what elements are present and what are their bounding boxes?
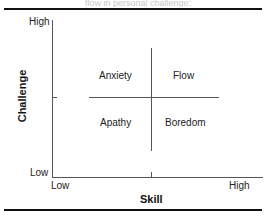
y-axis-mid-tick xyxy=(52,97,57,98)
x-axis xyxy=(52,177,263,178)
quadrant-divider-horizontal xyxy=(89,97,219,98)
y-axis-low-label: Low xyxy=(30,167,48,178)
quadrant-flow: Flow xyxy=(173,70,194,81)
x-axis-mid-tick xyxy=(151,172,152,177)
top-rule xyxy=(4,8,262,10)
quadrant-anxiety: Anxiety xyxy=(99,70,132,81)
x-axis-low-label: Low xyxy=(51,180,69,191)
x-axis-high-label: High xyxy=(229,180,250,191)
bottom-rule xyxy=(4,209,262,211)
quadrant-boredom: Boredom xyxy=(165,117,206,128)
y-axis-high-label: High xyxy=(29,16,50,27)
quadrant-apathy: Apathy xyxy=(100,117,131,128)
quadrant-divider-vertical xyxy=(151,48,152,151)
x-axis-title: Skill xyxy=(140,193,163,205)
cropped-header-text: flow in personal challenge: xyxy=(0,0,276,7)
y-axis xyxy=(52,20,53,178)
y-axis-title: Challenge xyxy=(16,68,28,124)
